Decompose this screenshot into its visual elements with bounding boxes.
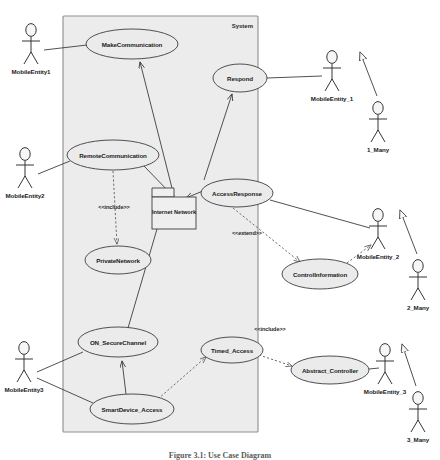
actor-mobileentity3[interactable]: MobileEntity3: [5, 342, 45, 393]
use-case-label: Abstract_Controller: [302, 367, 359, 374]
actor-label: MobileEntity2: [6, 192, 46, 199]
actor-label: 1_Many: [367, 146, 390, 153]
package-tab: [152, 188, 174, 197]
assoc-accessresponse-mobileentity-2: [270, 200, 370, 228]
use-case-private-network[interactable]: PrivateNetwork: [85, 246, 151, 274]
use-case-label: PrivateNetwork: [96, 257, 140, 264]
use-case-access-response[interactable]: AccessResponse: [201, 179, 273, 207]
gen-1many-mobileentity-1: [360, 52, 377, 96]
stereotype-include-private-network: <<include>>: [98, 204, 130, 210]
figure-caption: Figure 3.1: Use Case Diagram: [169, 451, 272, 460]
actor-leg-right: [24, 370, 31, 382]
actor-leg-left: [18, 176, 25, 188]
actor-head: [373, 102, 383, 115]
actor-leg-right: [25, 176, 32, 188]
use-case-label: SmartDevice_Access: [102, 406, 163, 413]
stereotype-include-abstract-controller: <<include>>: [254, 326, 286, 332]
gen-2many-mobileentity-2: [400, 210, 417, 254]
use-case-smartdevice-access[interactable]: SmartDevice_Access: [90, 394, 174, 424]
actor-label: 2_Many: [407, 304, 430, 311]
actor-mobileentity1[interactable]: MobileEntity1: [12, 24, 52, 75]
actor-head: [380, 344, 390, 357]
actor-label: MobileEntity_3: [364, 388, 407, 395]
assoc-abstractcontroller-mobileentity-3: [369, 368, 379, 369]
actor-label: MobileEntity_2: [357, 253, 400, 260]
actor-label: 3_Many: [407, 436, 430, 443]
actor-head: [20, 148, 30, 161]
actor-head: [327, 51, 337, 64]
actor-3-many[interactable]: 3_Many: [407, 392, 430, 443]
use-case-label: ON_SecureChannel: [90, 339, 147, 346]
actor-leg-left: [325, 79, 332, 91]
actor-leg-left: [17, 370, 24, 382]
actor-head: [413, 260, 423, 273]
use-case-remote-communication[interactable]: RemoteCommunication: [67, 140, 159, 170]
actor-leg-right: [418, 288, 425, 300]
gen-3many-mobileentity-3: [402, 344, 416, 386]
actor-leg-right: [31, 52, 38, 64]
use-case-control-information[interactable]: ControlInformation: [282, 259, 358, 289]
stereotype-extend-control-information: <<extend>>: [232, 230, 263, 236]
assoc-respond-mobileentity-1: [267, 76, 322, 78]
use-case-label: ControlInformation: [293, 271, 348, 278]
actor-1-many[interactable]: 1_Many: [367, 102, 390, 153]
use-case-diagram-canvas: System: [0, 0, 440, 460]
actor-head: [413, 392, 423, 405]
actor-leg-left: [378, 372, 385, 384]
use-case-label: Timed_Access: [211, 347, 254, 354]
node-internet-network-label: Internet Network: [152, 209, 197, 215]
actor-head: [19, 342, 29, 355]
actor-head: [26, 24, 36, 37]
use-case-timed-access[interactable]: Timed_Access: [201, 337, 263, 363]
actor-leg-right: [378, 237, 385, 249]
actor-leg-right: [418, 420, 425, 432]
actor-label: MobileEntity1: [12, 68, 52, 75]
actor-mobileentity-2[interactable]: MobileEntity_2: [357, 209, 400, 260]
use-case-label: Respond: [227, 75, 253, 82]
actor-2-many[interactable]: 2_Many: [407, 260, 430, 311]
actor-leg-right: [385, 372, 392, 384]
actor-leg-left: [371, 130, 378, 142]
include-timedaccess-abstractcontroller: [259, 355, 292, 366]
actor-label: MobileEntity3: [5, 386, 45, 393]
use-case-label: AccessResponse: [212, 190, 263, 197]
actor-leg-left: [411, 288, 418, 300]
diagram-svg: System: [0, 0, 440, 460]
use-case-on-securechannel[interactable]: ON_SecureChannel: [78, 327, 158, 357]
use-case-label: RemoteCommunication: [79, 152, 147, 159]
actor-leg-right: [332, 79, 339, 91]
system-boundary-label: System: [232, 23, 253, 29]
use-case-respond[interactable]: Respond: [213, 64, 267, 92]
actor-head: [373, 209, 383, 222]
actor-leg-left: [24, 52, 31, 64]
actor-leg-left: [411, 420, 418, 432]
actor-label: MobileEntity_1: [311, 95, 354, 102]
actor-leg-right: [378, 130, 385, 142]
use-case-make-communication[interactable]: MakeCommunication: [86, 29, 178, 59]
use-case-label: MakeCommunication: [102, 41, 163, 48]
use-case-abstract-controller[interactable]: Abstract_Controller: [291, 356, 369, 384]
actor-leg-left: [371, 237, 378, 249]
